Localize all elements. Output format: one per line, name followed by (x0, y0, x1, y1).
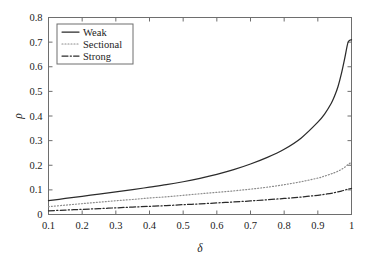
x-tick-label: 0.2 (76, 220, 89, 231)
chart-legend: Weak Sectional Strong (57, 24, 133, 64)
x-tick-label: 1 (349, 220, 354, 231)
x-tick-label: 0.4 (143, 220, 157, 231)
y-tick-label: 0.5 (29, 86, 42, 97)
line-chart: 00.10.20.30.40.50.60.70.8 0.10.20.30.40.… (0, 0, 371, 261)
chart-figure: 00.10.20.30.40.50.60.70.8 0.10.20.30.40.… (0, 0, 371, 261)
x-tick-label: 0.8 (278, 220, 291, 231)
legend-label-weak: Weak (83, 27, 107, 38)
x-axis-label: δ (197, 242, 203, 254)
y-tick-label: 0 (37, 209, 42, 220)
y-tick-label: 0.6 (29, 61, 42, 72)
x-tick-label: 0.6 (210, 220, 223, 231)
series-line-sectional (49, 162, 352, 206)
x-tick-label: 0.3 (109, 220, 122, 231)
series-lines (49, 40, 352, 211)
y-axis-label: ρ (12, 113, 25, 120)
legend-label-strong: Strong (83, 51, 112, 62)
y-tick-label: 0.1 (29, 184, 42, 195)
y-tick-label: 0.2 (29, 160, 42, 171)
y-tick-label: 0.7 (29, 37, 42, 48)
legend-label-sectional: Sectional (83, 39, 122, 50)
y-tick-label: 0.3 (29, 135, 42, 146)
y-tick-label: 0.8 (29, 12, 42, 23)
x-tick-label: 0.7 (244, 220, 257, 231)
x-tick-label: 0.5 (177, 220, 190, 231)
series-line-strong (49, 188, 352, 210)
x-tick-label: 0.9 (311, 220, 324, 231)
y-tick-label: 0.4 (29, 111, 43, 122)
x-tick-label: 0.1 (42, 220, 55, 231)
